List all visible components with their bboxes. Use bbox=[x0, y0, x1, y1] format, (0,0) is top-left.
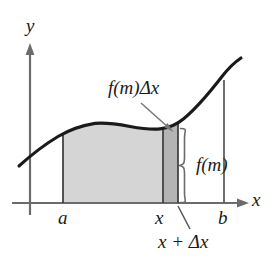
tick-label-b: b bbox=[218, 208, 228, 227]
tick-label-a: a bbox=[58, 208, 68, 227]
right-edge-leader-line bbox=[178, 206, 190, 229]
figure-canvas bbox=[0, 0, 275, 258]
strip-area-leader-line bbox=[141, 103, 169, 128]
tick-label-x: x bbox=[155, 208, 163, 227]
calculus-area-figure: y x a x b f(m) f(m)Δx x + Δx bbox=[0, 0, 275, 258]
y-axis-arrowhead bbox=[26, 43, 35, 55]
strip-height-annotation: f(m) bbox=[196, 155, 228, 174]
shaded-area-region bbox=[63, 124, 163, 203]
x-axis-arrowhead bbox=[237, 198, 249, 207]
right-edge-annotation: x + Δx bbox=[158, 232, 208, 251]
strip-area-annotation: f(m)Δx bbox=[108, 78, 159, 97]
height-brace bbox=[180, 129, 186, 203]
x-axis-label: x bbox=[252, 190, 260, 209]
riemann-strip bbox=[163, 125, 178, 204]
y-axis-label: y bbox=[26, 16, 34, 35]
